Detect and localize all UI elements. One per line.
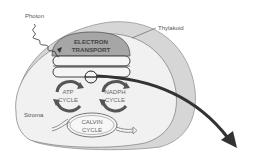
thylakoid-label: Thylakoid (158, 25, 184, 31)
atp-label-2: CYCLE (58, 97, 78, 103)
atp-label-1: ATP (62, 89, 73, 95)
nadph-label-2: CYCLE (105, 97, 125, 103)
thylakoid-disc-2 (53, 67, 130, 77)
photon-label: Photon (25, 13, 44, 19)
calvin-label-2: CYCLE (82, 127, 102, 133)
thylakoid-disc-1 (53, 56, 130, 66)
calvin-label-1: CALVIN (81, 119, 102, 125)
electron-transport-label-2: TRANSPORT (72, 46, 111, 53)
chloroplast-diagram: ELECTRON TRANSPORT ATP CYCLE NADPH CYCLE… (0, 0, 256, 157)
electron-transport-label-1: ELECTRON (74, 38, 109, 45)
nadph-label-1: NADPH (104, 89, 125, 95)
stroma-label: Stroma (24, 112, 44, 118)
